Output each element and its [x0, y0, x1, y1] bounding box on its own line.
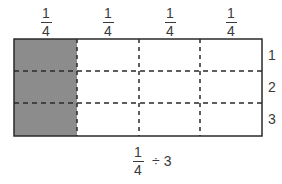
numerator: 1: [166, 6, 174, 20]
column-label-1: 1 4: [36, 6, 56, 38]
numerator: 1: [134, 145, 142, 159]
operand: 3: [164, 153, 172, 169]
row-label-3: 3: [268, 112, 276, 126]
denominator: 4: [166, 24, 174, 38]
denominator: 4: [104, 24, 112, 38]
expression-fraction: 1 4: [128, 145, 148, 177]
column-label-4: 1 4: [221, 6, 241, 38]
numerator: 1: [42, 6, 50, 20]
row-label-1: 1: [268, 48, 276, 62]
column-label-3: 1 4: [160, 6, 180, 38]
shaded-quarter: [14, 39, 77, 136]
column-label-2: 1 4: [98, 6, 118, 38]
denominator: 4: [134, 163, 142, 177]
division-expression: 1 4 ÷ 3: [128, 145, 171, 177]
denominator: 4: [42, 24, 50, 38]
row-label-2: 2: [268, 80, 276, 94]
denominator: 4: [227, 24, 235, 38]
divide-operator: ÷: [152, 153, 160, 169]
numerator: 1: [227, 6, 235, 20]
numerator: 1: [104, 6, 112, 20]
